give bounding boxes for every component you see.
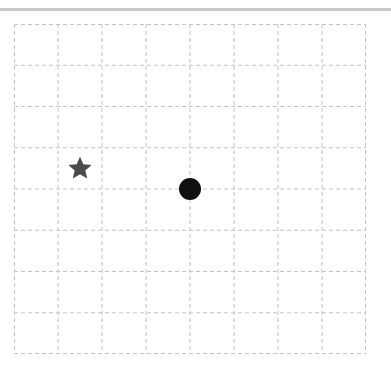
circle-icon[interactable]: [179, 178, 201, 200]
game-board[interactable]: [14, 24, 366, 354]
top-divider: [0, 8, 391, 11]
